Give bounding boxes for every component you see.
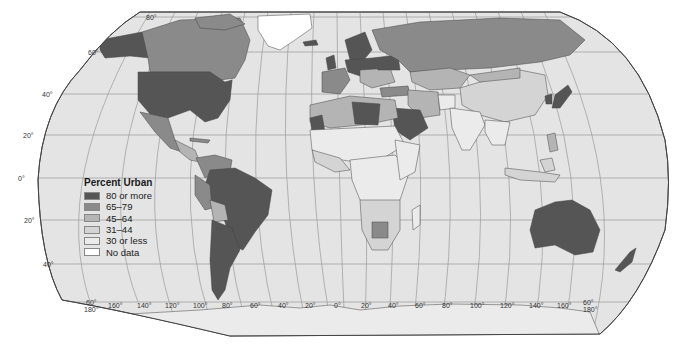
lon-label: 120° bbox=[500, 302, 515, 309]
lat-label-80: 80° bbox=[146, 14, 157, 21]
korea bbox=[545, 94, 552, 104]
lon-label: 0° bbox=[334, 302, 341, 309]
lon-label: 100° bbox=[470, 302, 485, 309]
world-map: 80° 60° 40° 20° 0° 20° 40° 60° 60° 180° … bbox=[0, 0, 673, 352]
libya bbox=[352, 102, 380, 125]
lat-label-60: 60° bbox=[88, 49, 99, 56]
lat-label-40: 40° bbox=[42, 91, 53, 98]
lon-label: 20° bbox=[361, 302, 372, 309]
lon-label: 60° bbox=[415, 302, 426, 309]
legend-item: No data bbox=[84, 246, 152, 257]
legend: Percent Urban 80 or more 65–79 45–64 31–… bbox=[84, 177, 152, 258]
legend-swatch bbox=[84, 248, 100, 256]
lon-label: 20° bbox=[305, 302, 316, 309]
legend-label: 45–64 bbox=[106, 213, 132, 224]
lon-label: 160° bbox=[557, 302, 572, 309]
legend-label: No data bbox=[106, 247, 139, 258]
lon-label: 80° bbox=[442, 302, 453, 309]
lat-label-20s: 20° bbox=[24, 217, 35, 224]
legend-label: 80 or more bbox=[106, 190, 152, 201]
lat-label-0: 0° bbox=[18, 175, 25, 182]
legend-label: 30 or less bbox=[106, 235, 147, 246]
legend-swatch bbox=[84, 237, 100, 245]
legend-item: 30 or less bbox=[84, 235, 152, 246]
legend-swatch bbox=[84, 192, 100, 200]
lon-label: 140° bbox=[529, 302, 544, 309]
alaska bbox=[100, 32, 150, 58]
legend-swatch bbox=[84, 214, 100, 222]
legend-item: 80 or more bbox=[84, 190, 152, 201]
lon-label: 40° bbox=[278, 302, 289, 309]
lon-label: 60° bbox=[250, 302, 261, 309]
lon-label: 180° bbox=[583, 306, 598, 313]
lat-label-60s-left: 60° bbox=[86, 299, 97, 306]
legend-title: Percent Urban bbox=[84, 177, 152, 188]
lon-label: 120° bbox=[165, 302, 180, 309]
legend-item: 45–64 bbox=[84, 213, 152, 224]
lon-label: 160° bbox=[108, 302, 123, 309]
lon-label: 100° bbox=[193, 302, 208, 309]
lon-label: 40° bbox=[388, 302, 399, 309]
legend-swatch bbox=[84, 226, 100, 234]
afghanistan bbox=[438, 95, 455, 110]
legend-label: 31–44 bbox=[106, 224, 132, 235]
lat-label-60s-right: 60° bbox=[583, 299, 594, 306]
legend-swatch bbox=[84, 203, 100, 211]
uk bbox=[326, 55, 336, 70]
lat-label-40s: 40° bbox=[43, 261, 54, 268]
legend-item: 31–44 bbox=[84, 224, 152, 235]
botswana bbox=[372, 222, 388, 238]
lat-label-20n: 20° bbox=[23, 132, 34, 139]
legend-label: 65–79 bbox=[106, 201, 132, 212]
lon-label: 180° bbox=[84, 306, 99, 313]
lon-label: 80° bbox=[222, 302, 233, 309]
lon-label: 140° bbox=[137, 302, 152, 309]
legend-item: 65–79 bbox=[84, 201, 152, 212]
turkey bbox=[380, 86, 410, 97]
